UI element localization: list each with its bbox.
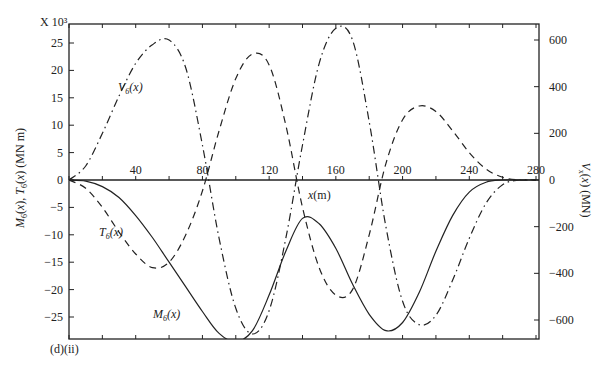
left-y-tick-label: 0 xyxy=(57,173,63,187)
panel-label: (d)(ii) xyxy=(50,342,79,356)
right-y-axis-ticks: 6004002000−200−400−600 xyxy=(534,33,574,327)
x-tick-label: 200 xyxy=(394,163,412,177)
right-y-axis-title: Vx(x) (MN) xyxy=(577,163,593,218)
x-tick-label: 40 xyxy=(130,163,142,177)
left-y-tick-label: 15 xyxy=(51,91,63,105)
right-y-tick-label: −400 xyxy=(549,266,574,280)
right-y-tick-label: −200 xyxy=(549,220,574,234)
plot-frame xyxy=(69,24,539,339)
chart-canvas: 4080120160200240280 2520151050−5−10−15−2… xyxy=(0,0,605,379)
left-y-tick-label: 10 xyxy=(51,118,63,132)
curve-labels: M6(x)T6(x)V6(x) xyxy=(99,80,180,323)
plot-border xyxy=(69,24,539,339)
left-y-tick-label: 20 xyxy=(51,63,63,77)
curve-label-m: M6(x) xyxy=(152,307,180,323)
right-y-tick-label: 400 xyxy=(549,80,567,94)
left-y-tick-label: −25 xyxy=(44,310,63,324)
left-y-tick-label: −20 xyxy=(44,283,63,297)
series-m6x-line xyxy=(69,180,536,342)
x-tick-label: 240 xyxy=(460,163,478,177)
curve-label-t: T6(x) xyxy=(99,225,123,241)
x-tick-label: 160 xyxy=(327,163,345,177)
curve-label-v: V6(x) xyxy=(118,80,143,96)
right-y-tick-label: 200 xyxy=(549,126,567,140)
left-y-tick-label: −10 xyxy=(44,228,63,242)
x-axis-title: x(m) xyxy=(307,188,331,202)
chart-series xyxy=(69,26,536,342)
left-axis-multiplier: X 10³ xyxy=(40,15,68,29)
left-y-tick-label: −5 xyxy=(50,200,63,214)
right-y-tick-label: 0 xyxy=(549,173,555,187)
right-y-tick-label: 600 xyxy=(549,33,567,47)
right-y-tick-label: −600 xyxy=(549,313,574,327)
x-axis-ticks: 4080120160200240280 xyxy=(69,24,545,339)
left-y-tick-label: −15 xyxy=(44,255,63,269)
x-tick-label: 280 xyxy=(527,163,545,177)
left-y-tick-label: 5 xyxy=(57,146,63,160)
left-y-tick-label: 25 xyxy=(51,36,63,50)
left-y-axis-title: M6(x), T6(x) (MN m) xyxy=(13,128,29,229)
x-tick-label: 120 xyxy=(260,163,278,177)
